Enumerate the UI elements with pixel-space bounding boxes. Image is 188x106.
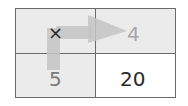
multiply-operator: × bbox=[48, 22, 63, 43]
product-value: 20 bbox=[120, 67, 145, 91]
arrow-icon bbox=[0, 0, 188, 106]
left-factor: 5 bbox=[49, 67, 62, 91]
top-factor: 4 bbox=[127, 22, 140, 46]
